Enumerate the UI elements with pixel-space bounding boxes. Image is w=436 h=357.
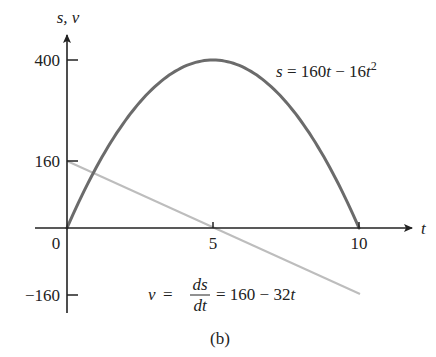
position-equation-label: s = 160t − 16t2 (276, 59, 377, 81)
velocity-frac-numerator: ds (192, 275, 208, 294)
x-tick-label-0: 0 (52, 234, 61, 253)
y-tick-label-400: 400 (35, 51, 61, 70)
x-axis-label: t (421, 219, 427, 238)
position-curve (67, 60, 359, 228)
y-tick-label-neg160: −160 (25, 286, 60, 305)
x-tick-label-5: 5 (209, 234, 218, 253)
motion-graph-figure: 400 160 −160 0 5 10 s, v t s = 160t − 16… (0, 0, 436, 357)
chart-svg: 400 160 −160 0 5 10 s, v t s = 160t − 16… (0, 0, 436, 357)
velocity-eq-equals: = (163, 285, 173, 304)
velocity-eq-lhs: v (148, 285, 156, 304)
x-tick-label-10: 10 (351, 234, 368, 253)
velocity-equation-label: v = ds dt = 160 − 32t (148, 275, 296, 315)
y-axis-label: s, v (57, 8, 80, 27)
y-tick-label-160: 160 (35, 152, 61, 171)
figure-caption: (b) (210, 329, 230, 348)
velocity-eq-rhs: = 160 − 32t (216, 285, 296, 304)
velocity-frac-denominator: dt (193, 296, 208, 315)
